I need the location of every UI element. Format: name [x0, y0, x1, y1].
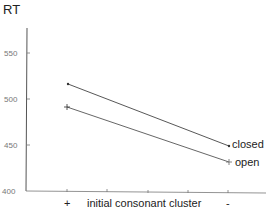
y-tick-label: 400	[2, 187, 16, 196]
y-tick-label: 550	[4, 49, 18, 58]
series-label-closed: closed	[232, 138, 264, 150]
x-tick-label-minus: -	[226, 197, 230, 209]
plus-marker-icon	[226, 159, 232, 165]
series-open: open	[64, 104, 259, 168]
y-tick-label: 450	[4, 141, 18, 150]
x-axis-title: initial consonant cluster	[87, 197, 202, 209]
dot-marker-icon	[228, 145, 230, 147]
y-tick-label: 500	[4, 95, 18, 104]
line-chart: 550 500 450 400 closed open + initial co…	[0, 0, 275, 216]
x-tick-label-plus: +	[64, 197, 70, 209]
series-label-open: open	[235, 156, 259, 168]
dot-marker-icon	[67, 83, 69, 85]
plus-marker-icon	[64, 104, 70, 110]
y-axis	[26, 28, 27, 191]
x-axis	[26, 191, 266, 193]
